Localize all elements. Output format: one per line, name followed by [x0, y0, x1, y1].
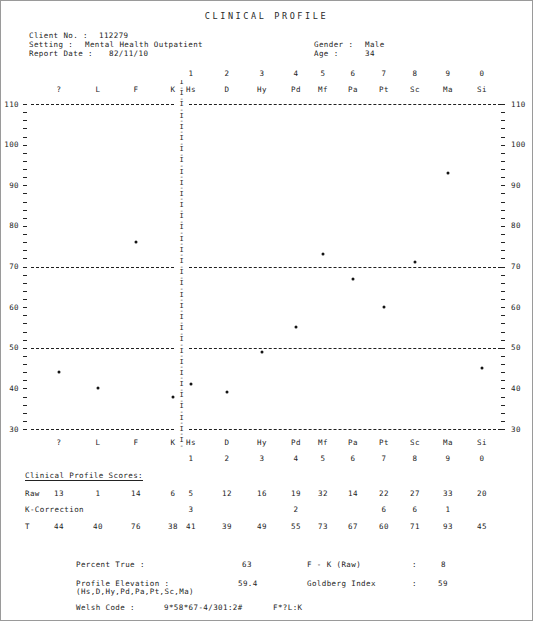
y-minor-tick — [501, 112, 505, 113]
y-tick-label-90: 90 — [511, 181, 521, 190]
y-tick-label-100: 100 — [0, 140, 19, 149]
score-t-sc: 71 — [410, 522, 420, 531]
score-t-ma: 93 — [443, 522, 453, 531]
score-raw-k: 6 — [171, 489, 176, 498]
y-minor-tick — [23, 193, 27, 194]
score-t-mf: 73 — [318, 522, 328, 531]
y-tick-label-90: 90 — [0, 181, 19, 190]
profile-elevation-note: (Hs,D,Hy,Pd,Pa,Pt,Sc,Ma) — [76, 587, 194, 596]
y-tick-label-40: 40 — [0, 384, 19, 393]
y-minor-tick — [23, 202, 27, 203]
score-k-correction-sc: 6 — [413, 505, 418, 514]
data-point-d — [226, 391, 229, 394]
score-raw-pa: 14 — [348, 489, 358, 498]
report-page: CLINICAL PROFILE Client No. : 112279 Set… — [0, 0, 533, 621]
y-minor-tick — [501, 429, 505, 430]
fk-raw-value: 8 — [441, 560, 446, 569]
y-minor-tick — [23, 185, 27, 186]
y-minor-tick — [501, 177, 505, 178]
y-minor-tick — [23, 137, 27, 138]
y-minor-tick — [23, 234, 27, 235]
data-point-sc — [414, 261, 417, 264]
page-title: CLINICAL PROFILE — [1, 11, 532, 21]
y-minor-tick — [23, 356, 27, 357]
y-minor-tick — [23, 380, 27, 381]
y-tick-label-60: 60 — [0, 303, 19, 312]
gender-label: Gender : — [314, 40, 353, 49]
y-minor-tick — [501, 218, 505, 219]
scale-label-pa: Pa — [348, 438, 358, 447]
scale-label-pd: Pd — [291, 438, 301, 447]
y-minor-tick — [501, 299, 505, 300]
y-minor-tick — [501, 421, 505, 422]
y-minor-tick — [23, 405, 27, 406]
data-point-hy — [261, 350, 264, 353]
y-minor-tick — [501, 258, 505, 259]
score-t-pd: 55 — [291, 522, 301, 531]
y-minor-tick — [23, 397, 27, 398]
scale-number-pd: 4 — [293, 69, 298, 78]
scale-label-l: L — [95, 438, 100, 447]
score-k-correction-ma: 1 — [446, 505, 451, 514]
scale-label-ma: Ma — [443, 85, 453, 94]
y-minor-tick — [501, 185, 505, 186]
y-tick-label-100: 100 — [511, 140, 526, 149]
age-value: 34 — [365, 49, 375, 58]
y-minor-tick — [23, 348, 27, 349]
y-minor-tick — [23, 145, 27, 146]
y-minor-tick — [23, 128, 27, 129]
y-minor-tick — [23, 307, 27, 308]
y-minor-tick — [23, 120, 27, 121]
score-raw-ma: 33 — [443, 489, 453, 498]
y-minor-tick — [23, 388, 27, 389]
y-minor-tick — [23, 218, 27, 219]
score-t-l: 40 — [93, 522, 103, 531]
gender-value: Male — [365, 40, 385, 49]
fk-raw-label: F - K (Raw) — [307, 560, 361, 569]
y-minor-tick — [501, 340, 505, 341]
data-point-f — [135, 241, 138, 244]
y-minor-tick — [23, 242, 27, 243]
scale-number-pa: 6 — [350, 454, 355, 463]
data-point-si — [481, 367, 484, 370]
data-point-l — [97, 387, 100, 390]
y-tick-label-110: 110 — [0, 100, 19, 109]
data-point-mf — [322, 253, 325, 256]
y-minor-tick — [501, 388, 505, 389]
scale-label-pa: Pa — [348, 85, 358, 94]
y-minor-tick — [501, 413, 505, 414]
scale-number-hy: 3 — [259, 454, 264, 463]
scale-label-hy: Hy — [257, 438, 267, 447]
scale-label-sc: Sc — [410, 85, 420, 94]
score-t-q: 44 — [54, 522, 64, 531]
y-tick-label-30: 30 — [511, 425, 521, 434]
scale-label-hs: Hs — [186, 438, 196, 447]
score-raw-f: 14 — [131, 489, 141, 498]
score-t-hy: 49 — [257, 522, 267, 531]
setting-label: Setting : — [29, 40, 73, 49]
score-t-d: 39 — [222, 522, 232, 531]
scale-number-mf: 5 — [320, 454, 325, 463]
report-date-value: 82/11/10 — [109, 49, 148, 58]
scale-label-ma: Ma — [443, 438, 453, 447]
scale-label-si: Si — [477, 85, 487, 94]
y-minor-tick — [23, 291, 27, 292]
y-minor-tick — [501, 202, 505, 203]
y-tick-label-110: 110 — [511, 100, 526, 109]
y-minor-tick — [501, 291, 505, 292]
score-raw-mf: 32 — [318, 489, 328, 498]
data-point-pt — [383, 306, 386, 309]
y-minor-tick — [23, 153, 27, 154]
y-minor-tick — [23, 372, 27, 373]
scale-number-hs: 1 — [188, 69, 193, 78]
scale-label-pt: Pt — [379, 438, 389, 447]
refline-110-right — [189, 104, 501, 105]
scale-label-d: D — [224, 85, 229, 94]
data-point-pd — [295, 326, 298, 329]
y-minor-tick — [501, 153, 505, 154]
percent-true-value: 63 — [242, 560, 252, 569]
y-minor-tick — [23, 112, 27, 113]
y-tick-label-50: 50 — [511, 343, 521, 352]
y-minor-tick — [501, 120, 505, 121]
scale-number-si: 0 — [479, 69, 484, 78]
